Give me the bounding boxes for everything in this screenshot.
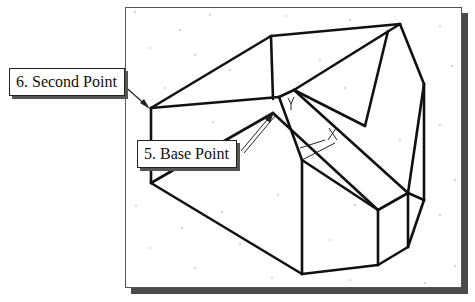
callout-second-point-label: 6. Second Point — [10, 69, 124, 95]
callout-base-point-label: 5. Base Point — [138, 141, 236, 167]
x-axis-marker-icon — [328, 127, 337, 140]
callout-second-point: 6. Second Point — [9, 68, 125, 96]
wireframe-drawing — [0, 0, 475, 302]
y-axis-marker-icon — [288, 97, 294, 110]
callout-base-point: 5. Base Point — [137, 140, 237, 168]
